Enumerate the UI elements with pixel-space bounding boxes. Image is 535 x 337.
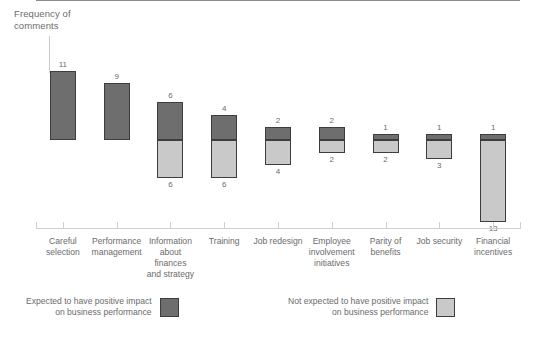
axis-endcap-left xyxy=(36,222,37,229)
plot-area: 119664624221213113 xyxy=(0,0,535,337)
category-label: Information about finances and strategy xyxy=(144,236,198,280)
legend-item-positive: Expected to have positive impact on busi… xyxy=(26,296,179,318)
category-tick xyxy=(170,222,171,229)
bar-value-label-positive: 4 xyxy=(204,104,244,113)
category-label: Job redesign xyxy=(251,236,305,247)
category-tick xyxy=(493,222,494,229)
category-tick xyxy=(117,222,118,229)
category-tick xyxy=(332,222,333,229)
category-tick xyxy=(278,222,279,229)
bar-value-label-positive: 2 xyxy=(312,116,352,125)
category-label: Careful selection xyxy=(36,236,90,258)
bar-value-label-negative: 6 xyxy=(150,180,190,189)
bar-negative xyxy=(265,140,291,165)
category-tick xyxy=(386,222,387,229)
bar-value-label-negative: 4 xyxy=(258,167,298,176)
bar-value-label-negative: 6 xyxy=(204,180,244,189)
category-label: Employee involvement initiatives xyxy=(305,236,359,269)
category-label: Training xyxy=(197,236,251,247)
zero-baseline xyxy=(36,0,520,1)
bar-value-label-positive: 1 xyxy=(419,123,459,132)
light-gray-swatch-icon xyxy=(436,298,455,317)
legend-label-positive: Expected to have positive impact on busi… xyxy=(26,296,152,318)
bar-negative xyxy=(157,140,183,178)
legend-item-negative: Not expected to have positive impact on … xyxy=(288,296,455,318)
axis-endcap-right xyxy=(520,222,521,229)
bar-negative xyxy=(426,140,452,159)
bar-positive xyxy=(319,127,345,140)
category-tick xyxy=(224,222,225,229)
bar-value-label-negative: 3 xyxy=(419,161,459,170)
bar-negative xyxy=(211,140,237,178)
bar-value-label-positive: 11 xyxy=(43,60,83,69)
category-tick xyxy=(439,222,440,229)
chart-container: Frequency of comments 119664624221213113… xyxy=(0,0,535,337)
bar-value-label-positive: 1 xyxy=(366,123,406,132)
category-label: Job security xyxy=(412,236,466,247)
bar-value-label-negative: 2 xyxy=(312,155,352,164)
bar-negative xyxy=(480,140,506,222)
legend-label-negative: Not expected to have positive impact on … xyxy=(288,296,428,318)
dark-gray-swatch-icon xyxy=(160,298,179,317)
bar-value-label-negative: 2 xyxy=(366,155,406,164)
bar-value-label-positive: 2 xyxy=(258,116,298,125)
bar-positive xyxy=(50,71,76,140)
bar-negative xyxy=(373,140,399,153)
bar-positive xyxy=(211,115,237,140)
category-tick xyxy=(63,222,64,229)
bar-value-label-positive: 6 xyxy=(150,91,190,100)
category-label: Performance management xyxy=(90,236,144,258)
bar-value-label-positive: 9 xyxy=(97,72,137,81)
bar-positive xyxy=(265,127,291,140)
bar-value-label-positive: 1 xyxy=(473,123,513,132)
category-label: Financial incentives xyxy=(466,236,520,258)
bar-positive xyxy=(157,102,183,140)
bar-positive xyxy=(104,83,130,140)
category-label: Parity of benefits xyxy=(359,236,413,258)
bar-negative xyxy=(319,140,345,153)
